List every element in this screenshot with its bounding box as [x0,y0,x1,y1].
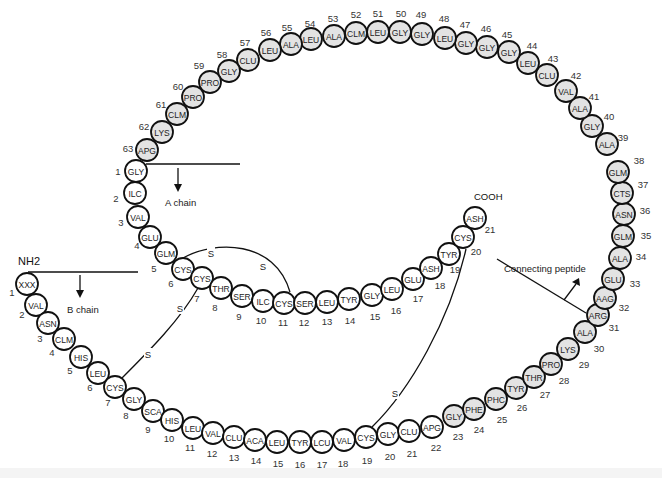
residue-number: 16 [391,305,402,316]
residue-label: TYR [341,295,358,305]
cooh-terminus-label: COOH [474,191,503,202]
residue-label: PRO [542,360,561,370]
residue-label: VAL [558,87,574,97]
residue-number: 5 [67,365,72,376]
residue-number: 31 [609,322,620,333]
residue-connecting_peptide-33: GLU33 [602,268,640,290]
residue-label: CYS [174,265,192,275]
residue-label: GLY [392,28,409,38]
residue-number: 15 [273,458,284,469]
sulfur-label: S [208,248,214,259]
residue-number: 14 [345,315,356,326]
residue-b_chain-16: TYR16 [289,431,311,470]
residue-label: GLY [221,67,238,77]
residue-label: GLY [364,291,381,301]
residue-b_chain-22: APG22 [421,416,443,453]
residue-number: 51 [373,8,384,19]
residue-label: ALA [326,32,342,42]
residue-number: 30 [594,343,605,354]
residue-label: GLY [380,430,397,440]
residue-connecting_peptide-23: GLY23 [443,405,465,442]
residue-number: 47 [460,19,471,30]
residue-number: 12 [207,448,218,459]
residue-number: 44 [527,40,538,51]
residue-connecting_peptide-56: LEU56 [259,27,281,62]
a-chain-label: A chain [165,197,196,208]
a-chain-arrow-head [174,184,182,192]
residue-number: 10 [164,433,175,444]
proinsulin-diagram: B chain A chain Connecting peptide NH2 C… [0,0,662,478]
residue-label: PHC [487,395,505,405]
residue-label: TYR [441,250,458,260]
residue-number: 60 [173,81,184,92]
residue-number: 7 [105,397,110,408]
residue-a_chain-1: GLY1 [115,160,147,182]
residue-number: 48 [439,13,450,24]
residue-label: GLY [501,48,518,58]
residue-connecting_peptide-43: CLU43 [536,53,558,87]
residue-number: 52 [351,9,362,20]
residue-label: ALA [283,40,299,50]
b-chain-arrow-head [76,290,84,298]
residue-connecting_peptide-54: LEU54 [300,18,322,51]
residue-b_chain-10: HIS10 [161,409,183,444]
residue-connecting_peptide-53: ALA53 [323,13,345,48]
residue-label: GLY [458,39,475,49]
sulfur-label: S [145,349,151,360]
residue-a_chain-8: THR8 [210,277,232,313]
residue-label: CYS [275,299,293,309]
residue-number: 3 [118,217,123,228]
residue-label: GLY [414,30,431,40]
residue-number: 1 [9,287,14,298]
residue-label: ASH [466,214,483,224]
residue-label: VAL [336,436,352,446]
residue-connecting_peptide-55: ALA55 [280,22,302,56]
disulfide-bond-a7-b7 [122,288,198,378]
residue-number: 2 [19,309,24,320]
residue-number: 18 [338,458,349,469]
residue-number: 36 [640,205,651,216]
residue-label: GLM [157,249,175,259]
residue-number: 10 [256,315,267,326]
residue-number: 6 [168,278,173,289]
residue-number: 37 [638,179,649,190]
residue-label: APG [423,423,441,433]
residue-b_chain-8: GLY8 [123,388,145,421]
residue-label: GLM [609,168,627,178]
residue-label: CYS [106,383,124,393]
residue-b_chain-13: CLU13 [223,426,245,463]
residue-number: 59 [194,60,205,71]
residue-number: 26 [517,402,528,413]
residue-label: HIS [74,353,89,363]
residue-number: 41 [589,91,600,102]
residue-b_chain-14: ACA14 [244,429,266,466]
residue-number: 9 [236,311,241,322]
residue-label: CLU [225,433,242,443]
residue-number: 39 [618,132,629,143]
residue-label: LEU [384,285,401,295]
residue-label: ALA [572,104,588,114]
residue-label: ACA [246,436,264,446]
residue-b_chain-12: VAL12 [202,422,224,459]
residue-number: 21 [407,448,418,459]
residue-label: ALA [577,328,593,338]
residue-a_chain-3: VAL3 [118,206,149,228]
residue-b_chain-21: CLU21 [398,420,420,459]
residue-label: PRO [201,78,220,88]
residue-number: 54 [305,18,316,29]
residue-label: CYS [454,233,472,243]
residue-number: 17 [413,293,424,304]
residue-label: THR [212,284,229,294]
residue-label: AAG [596,294,614,304]
residue-number: 45 [502,29,513,40]
residue-label: CYS [357,433,375,443]
residue-label: GLY [126,395,143,405]
residue-b_chain-18: VAL18 [333,429,355,469]
residue-label: LEU [269,438,286,448]
residue-label: CLU [400,427,417,437]
residue-label: THR [525,373,542,383]
residue-number: 7 [194,293,199,304]
residue-label: ASN [39,319,56,329]
residue-number: 61 [156,99,167,110]
residue-label: CLM [347,29,365,39]
